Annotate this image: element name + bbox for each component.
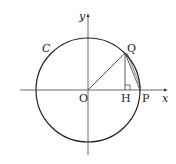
x-axis-label: x <box>162 92 169 105</box>
point-h-label: H <box>121 92 131 105</box>
point-q-label: Q <box>127 42 136 55</box>
segment-oq <box>88 53 125 90</box>
point-o-label: O <box>79 92 88 105</box>
y-axis-label: y <box>78 10 86 23</box>
point-p-label: P <box>142 92 150 105</box>
right-angle-mark <box>125 85 130 90</box>
unit-circle-diagram: C y x O Q H P <box>0 0 176 164</box>
segment-qp-inner <box>127 53 141 88</box>
segment-qp <box>125 53 140 90</box>
circle-label: C <box>42 42 51 55</box>
